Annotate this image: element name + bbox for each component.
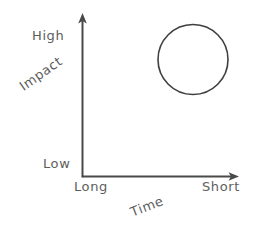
y-axis-tick-label-high: High: [32, 29, 64, 42]
y-axis-tick-label-low: Low: [43, 157, 70, 170]
bubble-marker[interactable]: [158, 25, 228, 95]
chart-canvas: High Low Impact Long Short Time: [0, 0, 254, 235]
y-axis: [78, 13, 87, 177]
x-axis-tick-label-short: Short: [202, 180, 240, 193]
x-axis-tick-label-long: Long: [74, 180, 108, 193]
